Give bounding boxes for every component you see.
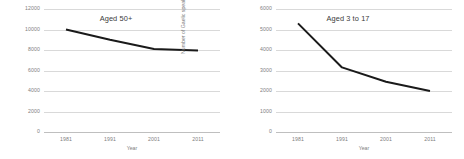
y-axis-tick-label: 10000 — [25, 27, 40, 32]
y-axis-tick-label: 4000 — [260, 47, 272, 52]
x-axis-tick-label: 1991 — [336, 137, 348, 142]
series-line — [276, 9, 452, 132]
chart-panel-left: Aged 50+ Number of Gaelic speakers Year … — [0, 0, 232, 159]
y-axis-tick-label: 6000 — [260, 6, 272, 11]
y-axis-tick-label: 5000 — [260, 27, 272, 32]
y-axis-title: Number of Gaelic speakers — [181, 0, 191, 84]
x-axis-tick-label: 2001 — [380, 137, 392, 142]
plot-area: 0100020003000400050006000 19811991200120… — [276, 9, 452, 132]
data-series-path — [66, 30, 198, 51]
x-axis-tick-label: 1981 — [292, 137, 304, 142]
data-series-path — [298, 23, 430, 91]
series-line — [44, 9, 220, 132]
y-axis-tick-label: 2000 — [28, 109, 40, 114]
y-axis-tick-label: 8000 — [28, 47, 40, 52]
chart-figure: Aged 50+ Number of Gaelic speakers Year … — [0, 0, 464, 159]
y-axis-tick-label: 12000 — [25, 6, 40, 11]
y-axis-tick-label: 2000 — [260, 88, 272, 93]
y-axis-tick-label: 3000 — [260, 68, 272, 73]
x-axis-tick-label: 2001 — [148, 137, 160, 142]
plot-area: 020004000600080001000012000 198119912001… — [44, 9, 220, 132]
y-axis-tick-label: 0 — [269, 129, 272, 134]
y-axis-tick-label: 6000 — [28, 68, 40, 73]
y-axis-tick-label: 4000 — [28, 88, 40, 93]
y-axis-tick-label: 0 — [37, 129, 40, 134]
x-axis-tick-label: 2011 — [192, 137, 204, 142]
y-axis-tick-label: 1000 — [260, 109, 272, 114]
gridline: 0 — [276, 132, 452, 133]
chart-panel-right: Aged 3 to 17 Number of Gaelic speakers Y… — [232, 0, 464, 159]
gridline: 0 — [44, 132, 220, 133]
x-axis-title: Year — [44, 146, 220, 151]
x-axis-tick-label: 1981 — [60, 137, 72, 142]
x-axis-title: Year — [276, 146, 452, 151]
x-axis-tick-label: 2011 — [424, 137, 436, 142]
x-axis-tick-label: 1991 — [104, 137, 116, 142]
